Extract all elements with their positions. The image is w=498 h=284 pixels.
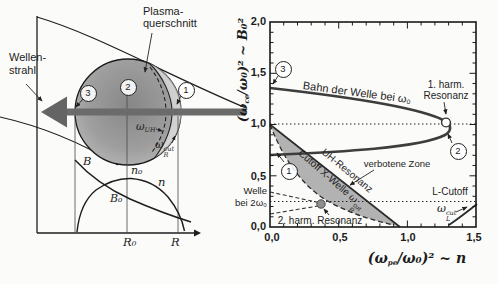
n0-label: n₀: [131, 165, 143, 177]
omega-lcut-label: ωcutL: [437, 203, 456, 222]
wave-beam-arrowhead: [41, 97, 67, 128]
second-harmonic-beam-lower: [270, 206, 321, 215]
y-tick-0.0: 0,0: [236, 220, 266, 232]
res1-label-line1: 1. harm.: [428, 80, 465, 91]
y-ticks-left: [270, 32, 277, 217]
x-tick-0.0: 0,0: [264, 231, 279, 243]
wave-label-line1: Wellen-: [9, 52, 46, 64]
b-curve-label: B: [83, 155, 91, 167]
density-profile-curve: [77, 178, 185, 232]
x-ticks-top: [284, 22, 463, 29]
y-axis-label: (ωce/ω₀)² ~ B₀²: [236, 18, 250, 122]
x-tick-1.0: 1,0: [400, 231, 415, 243]
forbidden-zone-label: verbotene Zone: [364, 159, 431, 169]
wave-beam-shaft: [67, 109, 246, 116]
second-harmonic-beam-upper: [270, 192, 321, 203]
badge-1-left: 1: [178, 82, 195, 99]
y-ticks-right: [470, 32, 477, 217]
wave-label-line2: strahl: [9, 65, 36, 77]
wave2-label-line1: Welle: [227, 186, 267, 196]
res2-label: 2. harm. Resonanz: [278, 216, 363, 227]
omega-rcut-label: ωcutR: [155, 139, 174, 158]
second-harmonic-absorption-marker: [317, 200, 325, 208]
badge-3-right: 3: [275, 61, 292, 78]
badge3-arrow-right: [273, 76, 278, 84]
b0-label: B₀: [110, 193, 123, 205]
badge-3-left: 3: [80, 85, 97, 102]
figure-ecrh-diagram: Plasma- querschnitt Wellen- strahl ωUH ω…: [0, 0, 498, 284]
left-x-axis-arrowhead: [194, 230, 201, 237]
plasma-label-line1: Plasma-: [143, 6, 183, 18]
badge2-arrow-right: [448, 134, 452, 143]
r0-axis-label: R₀: [123, 236, 136, 248]
x-tick-1.5: 1,5: [466, 231, 481, 243]
first-harmonic-resonance-marker: [442, 118, 451, 127]
wave2-label-line2: bei 2ω₀: [227, 198, 267, 208]
x-tick-0.5: 0,5: [332, 231, 347, 243]
badge-1-right: 1: [281, 163, 298, 180]
plasma-label-line2: querschnitt: [143, 18, 197, 30]
x-axis-label: (ωpe/ω₀)² ~ n: [368, 251, 466, 266]
y-tick-0.5: 0,5: [236, 170, 266, 182]
l-cutoff-label: L-Cutoff: [432, 187, 467, 198]
res1-label-line2: Resonanz: [423, 91, 468, 102]
badge-2-right: 2: [450, 143, 467, 160]
l-cutoff-arrow: [456, 207, 467, 212]
omega-uh-label: ωUH: [136, 121, 156, 134]
n-curve-label: n: [158, 176, 165, 188]
badge-2-left: 2: [120, 79, 137, 96]
wave-label-arrow: [26, 84, 42, 101]
res1-arrow: [444, 102, 446, 114]
r-axis-label: R: [171, 236, 180, 248]
left-panel-schematic: [0, 16, 246, 237]
